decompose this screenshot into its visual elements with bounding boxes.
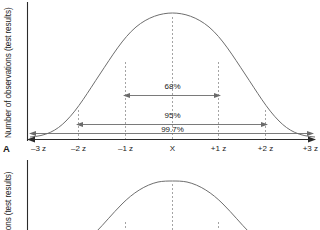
- x-tick-label-plus-3z: +3 z: [303, 144, 318, 153]
- panel-b: ions (test results): [4, 160, 249, 230]
- annotation-95-left-arrowhead: [76, 122, 83, 127]
- x-tick-label-minus-1z: –1 z: [118, 144, 133, 153]
- annotation-997-right-arrowhead: [307, 131, 314, 136]
- x-tick-label-plus-1z: +1 z: [211, 144, 226, 153]
- annotation-997-left-arrowhead: [29, 131, 36, 136]
- normal-distribution-figure: Number of observations (test results) 68…: [0, 0, 320, 230]
- annotation-68-right-arrowhead: [214, 93, 221, 98]
- x-tick-label-minus-2z: –2 z: [71, 144, 86, 153]
- annotation-997-percent: 99.7%: [29, 125, 314, 136]
- annotation-95-right-arrowhead: [261, 122, 268, 127]
- panel-a-y-axis-label: Number of observations (test results): [4, 7, 13, 138]
- annotation-68-percent: 68%: [123, 82, 221, 98]
- annotation-997-label: 99.7%: [161, 125, 184, 134]
- annotation-68-left-arrowhead: [123, 93, 130, 98]
- annotation-95-label: 95%: [164, 111, 180, 120]
- panel-b-y-axis-label: ions (test results): [4, 171, 13, 230]
- annotation-68-label: 68%: [164, 82, 180, 91]
- panel-a: Number of observations (test results) 68…: [3, 2, 318, 154]
- x-tick-label-minus-3z: –3 z: [31, 144, 46, 153]
- x-tick-label-mean: X: [170, 144, 176, 153]
- panel-a-letter: A: [3, 143, 10, 154]
- figure-canvas: Number of observations (test results) 68…: [0, 0, 320, 230]
- x-tick-label-plus-2z: +2 z: [258, 144, 273, 153]
